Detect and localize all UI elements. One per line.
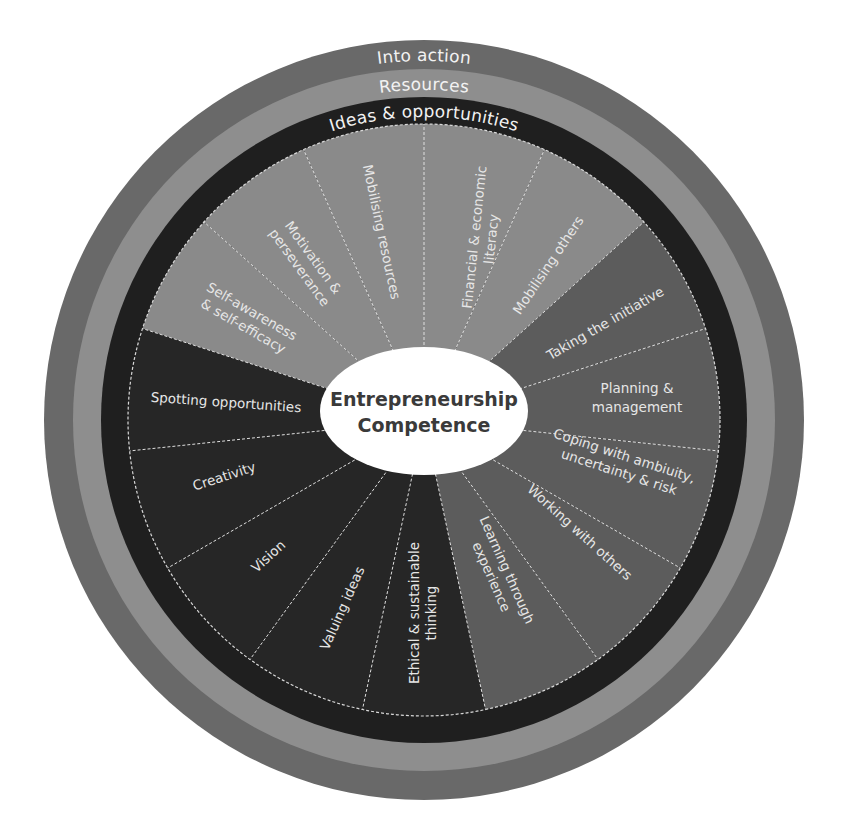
- ring-label-into-action-text: Into action: [376, 45, 472, 68]
- ring-label-into-action: Into action: [0, 0, 45, 4]
- svg-text:Ethical & sustainable: Ethical & sustainable: [406, 542, 422, 684]
- ring-label-resources-text: Resources: [378, 74, 470, 97]
- center-title-line2: Competence: [358, 414, 491, 436]
- center-ellipse: [320, 347, 528, 475]
- center-title-line1: Entrepreneurship: [330, 388, 518, 410]
- svg-text:thinking: thinking: [423, 586, 439, 641]
- entrepreneurship-wheel: Into action Entrepreneurship Competence …: [0, 0, 843, 824]
- svg-text:Planning &: Planning &: [601, 380, 674, 396]
- svg-text:management: management: [592, 399, 682, 415]
